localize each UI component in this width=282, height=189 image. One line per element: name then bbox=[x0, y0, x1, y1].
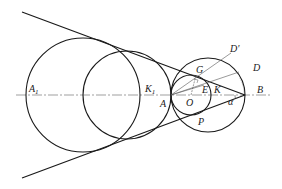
ray-a-e bbox=[171, 85, 204, 95]
label-k1: K1 bbox=[144, 83, 155, 96]
label-d-prime: D' bbox=[229, 43, 240, 54]
label-alpha: α bbox=[228, 96, 234, 107]
alpha-arc bbox=[235, 95, 236, 99]
label-p: P bbox=[197, 116, 204, 127]
label-a: A bbox=[159, 98, 167, 109]
label-b: B bbox=[257, 84, 263, 95]
geometry-diagram: A1 K1 A O E K G D' D B P α bbox=[0, 0, 282, 189]
label-e: E bbox=[201, 84, 208, 95]
label-d: D bbox=[252, 62, 261, 73]
label-o: O bbox=[186, 97, 193, 108]
label-a1: A1 bbox=[28, 83, 39, 96]
label-g: G bbox=[196, 64, 203, 75]
tangent-upper bbox=[22, 12, 245, 95]
tangent-lower bbox=[22, 95, 245, 178]
label-k: K bbox=[213, 84, 222, 95]
